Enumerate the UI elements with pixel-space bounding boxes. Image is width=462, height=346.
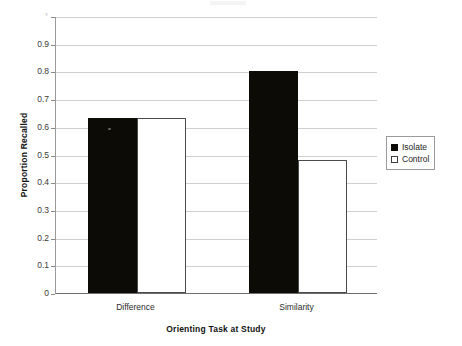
y-axis-tick-label: 1 xyxy=(8,12,49,16)
y-axis-tick-label: 0.5 xyxy=(8,151,49,160)
plot-area xyxy=(55,17,377,294)
legend-item-isolate: Isolate xyxy=(391,141,429,153)
x-axis-category-label: Difference xyxy=(76,302,196,312)
y-axis-tick-label: 0.2 xyxy=(8,234,49,243)
y-axis-tick-label: 0.4 xyxy=(8,178,49,187)
y-axis-tick-label: 0.1 xyxy=(8,261,49,270)
gridline xyxy=(56,72,377,73)
scan-artifact xyxy=(108,128,111,130)
bar-control-similarity xyxy=(298,160,347,293)
y-axis-tick-label: 0.6 xyxy=(8,123,49,132)
bar-control-difference xyxy=(137,118,186,293)
bar-isolate-similarity xyxy=(249,71,298,293)
bar-isolate-difference xyxy=(88,118,137,293)
y-axis-tick-label: 0.9 xyxy=(8,40,49,49)
scan-artifact xyxy=(210,1,246,5)
gridline xyxy=(56,17,377,18)
y-axis-tick-mark xyxy=(51,294,55,295)
legend-swatch-outlined-square-icon xyxy=(391,156,398,163)
y-axis-tick-label: 0.8 xyxy=(8,67,49,76)
gridline xyxy=(56,45,377,46)
y-axis-tick-label: 0 xyxy=(8,289,49,298)
legend-label-control: Control xyxy=(402,154,429,164)
x-axis-category-label: Similarity xyxy=(237,302,357,312)
x-axis-title: Orienting Task at Study xyxy=(55,324,377,334)
legend: Isolate Control xyxy=(386,136,435,170)
legend-item-control: Control xyxy=(391,153,429,165)
legend-swatch-filled-square-icon xyxy=(391,144,398,151)
bar-chart-figure: Proportion Recalled 10.90.80.70.60.50.40… xyxy=(0,0,462,346)
legend-label-isolate: Isolate xyxy=(402,142,427,152)
y-axis-tick-label: 0.7 xyxy=(8,95,49,104)
gridline xyxy=(56,100,377,101)
y-axis-tick-label: 0.3 xyxy=(8,206,49,215)
